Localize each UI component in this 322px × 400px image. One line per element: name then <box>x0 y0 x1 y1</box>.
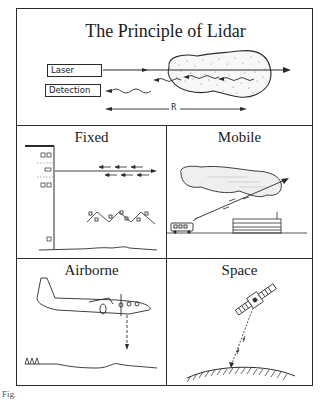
aerosol-cloud-icon <box>168 51 271 98</box>
fixed-lidar-diagram <box>17 125 167 259</box>
airplane-icon <box>37 278 150 316</box>
figure-caption: Fig. <box>2 389 16 399</box>
satellite-icon <box>234 281 279 317</box>
cloud-icon <box>181 166 282 196</box>
laser-label: Laser <box>47 64 102 77</box>
mobile-lidar-diagram <box>167 125 313 259</box>
van-icon <box>171 218 197 233</box>
ground-line <box>25 364 157 368</box>
airborne-lidar-diagram <box>17 258 167 386</box>
window-icon <box>41 153 45 157</box>
ground-line <box>39 247 157 250</box>
brick-wall-icon <box>233 212 281 233</box>
earth-surface-icon <box>187 367 295 378</box>
trees-icon <box>25 358 39 364</box>
houses-icon <box>87 211 155 224</box>
figure-frame: The Principle of Lidar <box>16 8 313 386</box>
lidar-instrument-icon <box>45 168 51 171</box>
range-label: R <box>171 103 177 112</box>
space-lidar-diagram <box>167 258 313 386</box>
detection-label: Detection <box>45 84 101 97</box>
